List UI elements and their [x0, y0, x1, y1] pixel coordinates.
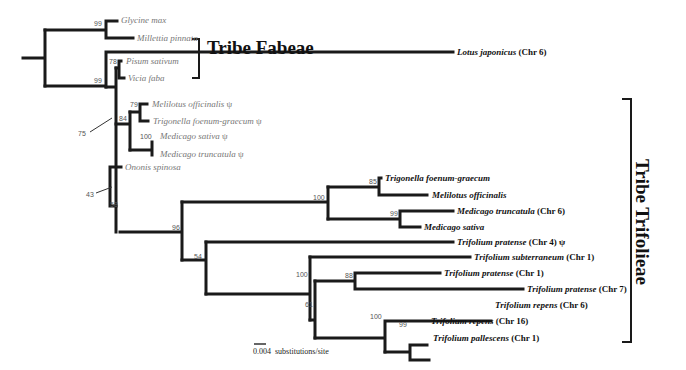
bootstrap-value: 88 — [345, 272, 353, 280]
scale-bar-label: 0.004 substitutions/site — [253, 347, 329, 356]
tribe-trifolieae-label: Tribe Trifolieae — [631, 159, 653, 285]
bootstrap-value: 54 — [194, 253, 202, 261]
taxon-label: Medicago truncatula ψ — [160, 149, 244, 159]
bootstrap-value: 100 — [296, 271, 308, 279]
taxon-label: Medicago truncatula (Chr 6) — [457, 206, 565, 216]
taxon-label: Pisum sativum — [126, 56, 179, 66]
bootstrap-value: 100 — [370, 313, 382, 321]
taxon-label: Trifolium subterraneum (Chr 1) — [474, 252, 594, 262]
bootstrap-value: 85 — [369, 178, 377, 186]
taxon-label: Trifolium pallescens (Chr 1) — [433, 333, 539, 343]
taxon-label: Trigonella foenum-graecum — [385, 173, 490, 183]
bootstrap-value: 100 — [313, 194, 325, 202]
bootstrap-value: 79 — [130, 101, 138, 109]
bootstrap-value: 99 — [94, 77, 102, 85]
taxon-label: Trifolium repens (Chr 16) — [431, 316, 528, 326]
taxon-label: Medicago sativa — [424, 222, 484, 232]
taxon-label: Lotus japonicus (Chr 6) — [457, 47, 547, 57]
bootstrap-value: 58 — [110, 201, 118, 209]
taxon-label: Trifolium repens (Chr 6) — [495, 300, 588, 310]
bootstrap-value: 99 — [399, 321, 407, 329]
tribe-fabeae-label: Tribe Fabeae — [207, 37, 314, 59]
bootstrap-value: 84 — [119, 115, 127, 123]
taxon-label: Trigonella foenum-graecum ψ — [153, 116, 262, 126]
taxon-label: Millettia pinnata — [137, 33, 198, 43]
bootstrap-value: 61 — [305, 301, 313, 309]
taxon-label: Trifolium pratense (Chr 4) ψ — [457, 237, 565, 247]
taxon-label: Melilotus officinalis — [432, 190, 507, 200]
bootstrap-value: 78 — [109, 58, 117, 66]
taxon-label: Melilotus officinalis ψ — [152, 99, 232, 109]
bootstrap-value: 99 — [390, 210, 398, 218]
taxon-label: Vicia faba — [128, 73, 165, 83]
bootstrap-value: 75 — [78, 130, 86, 138]
taxon-label: Medicago sativa ψ — [160, 131, 228, 141]
bootstrap-value: 96 — [172, 224, 180, 232]
taxon-label: Glycine max — [121, 15, 166, 25]
taxon-label: Trifolium pratense (Chr 7) — [527, 284, 627, 294]
bootstrap-value: 99 — [94, 20, 102, 28]
taxon-label: Trifolium pratense (Chr 1) — [444, 268, 544, 278]
taxon-label: Ononis spinosa — [125, 162, 181, 172]
phylogenetic-tree — [0, 0, 686, 370]
bootstrap-value: 43 — [86, 191, 94, 199]
bootstrap-value: 100 — [140, 133, 152, 141]
